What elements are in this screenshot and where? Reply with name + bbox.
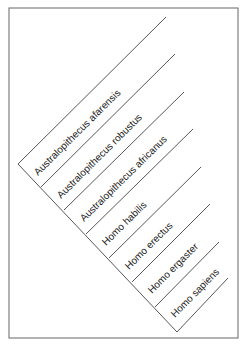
taxon-label: Australopithecus robustus <box>55 112 144 201</box>
taxon-label: Australopithecus afarensis <box>32 87 123 177</box>
branch-line <box>18 17 166 164</box>
taxon-label: Australopithecus africanus <box>78 133 169 223</box>
taxon-label: Homo sapiens <box>169 266 222 319</box>
taxon-label: Homo erectus <box>123 220 175 272</box>
taxon-label: Homo habilis <box>100 199 149 247</box>
cladogram: Australopithecus afarensisAustralopithec… <box>0 0 250 347</box>
branch-line <box>64 92 184 210</box>
